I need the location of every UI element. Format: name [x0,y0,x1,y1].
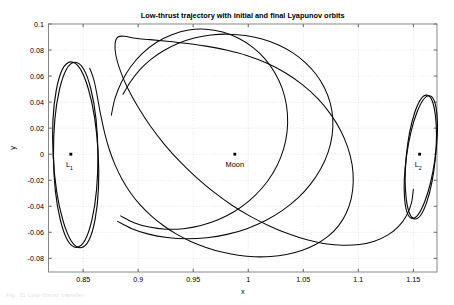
marker-l1 [69,153,72,156]
x-tick-label: 0.85 [76,275,90,284]
x-tick-label: 0.9 [133,275,143,284]
marker-l2 [418,153,421,156]
chart-title: Low-thrust trajectory with initial and f… [141,11,345,20]
y-tick-label: 0 [40,150,44,159]
figure-caption: Fig. 11 Low-thrust transfer [6,292,84,298]
label-moon: Moon [226,160,245,169]
marker-moon [233,153,236,156]
plot-background [0,0,454,305]
x-tick-label: 1.15 [406,275,420,284]
y-tick-label: 0.02 [30,124,44,133]
trajectory-plot: L1MoonL2 0.850.90.9511.051.11.150.10.080… [0,0,454,305]
x-tick-label: 1.1 [353,275,363,284]
x-axis-label: x [241,287,245,296]
x-tick-label: 1.05 [296,275,310,284]
x-tick-label: 1 [246,275,250,284]
figure-container: L1MoonL2 0.850.90.9511.051.11.150.10.080… [0,0,454,305]
y-tick-label: -0.04 [28,202,44,211]
y-tick-label: 0.08 [30,46,44,55]
y-tick-label: 0.1 [34,20,44,29]
y-tick-label: -0.06 [28,228,44,237]
x-tick-label: 0.95 [186,275,200,284]
y-axis-label: y [8,146,17,150]
y-tick-label: -0.02 [28,176,44,185]
y-tick-label: 0.04 [30,98,44,107]
y-tick-label: 0.06 [30,72,44,81]
y-tick-label: -0.08 [28,254,44,263]
